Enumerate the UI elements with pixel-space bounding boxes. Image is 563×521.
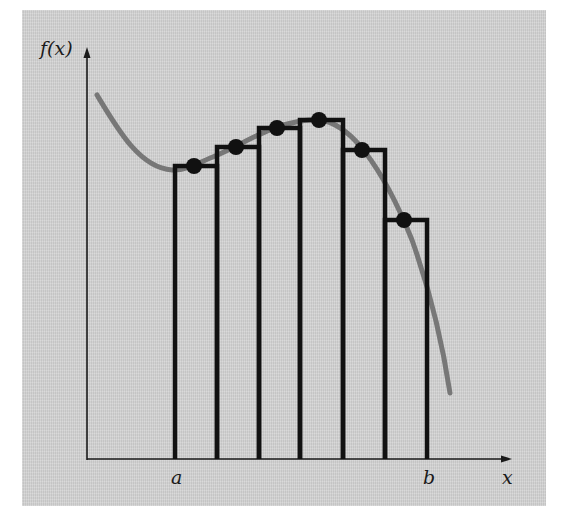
rectangle-1 — [175, 166, 217, 459]
midpoint-dot-6 — [396, 212, 412, 228]
midpoint-dot-4 — [311, 112, 327, 128]
rectangle-4 — [300, 120, 343, 459]
riemann-sum-diagram: f(x) a b x — [0, 0, 563, 521]
midpoint-dot-1 — [186, 158, 202, 174]
lower-limit-label: a — [171, 466, 182, 488]
rectangle-5 — [343, 150, 385, 459]
function-curve — [97, 95, 450, 393]
midpoint-dot-3 — [269, 120, 285, 136]
upper-limit-label: b — [423, 466, 435, 488]
y-axis-arrow-icon — [84, 47, 91, 58]
rectangles — [175, 120, 427, 459]
x-axis-label: x — [502, 466, 513, 488]
rectangle-3 — [259, 128, 300, 459]
x-axis-arrow-icon — [501, 456, 512, 463]
y-axis-label: f(x) — [38, 37, 73, 59]
rectangle-2 — [217, 147, 259, 459]
rectangle-6 — [385, 220, 427, 459]
midpoint-dot-2 — [228, 139, 244, 155]
midpoint-dot-5 — [354, 142, 370, 158]
